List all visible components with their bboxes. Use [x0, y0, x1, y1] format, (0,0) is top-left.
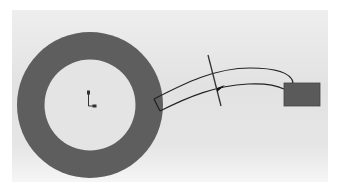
sweep-body[interactable] — [154, 68, 293, 111]
ring-profile[interactable] — [17, 32, 163, 178]
section-line[interactable] — [208, 55, 221, 106]
direction-arrow-icon — [217, 85, 225, 92]
rectangular-block[interactable] — [284, 83, 320, 106]
sketch-drawing — [0, 0, 342, 195]
cad-sketch-canvas[interactable] — [0, 0, 342, 195]
